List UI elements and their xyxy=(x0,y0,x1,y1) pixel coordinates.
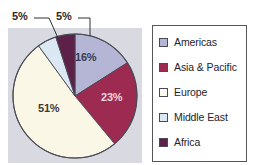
pie-chart-figure: 5% 5% 16% 23% 51% AmericasAsia & Pacific… xyxy=(0,0,253,165)
legend-item-europe[interactable]: Europe xyxy=(159,85,207,99)
legend-item-asia-pacific[interactable]: Asia & Pacific xyxy=(159,60,237,74)
slice-label-americas: 16% xyxy=(75,51,96,63)
chart-legend: AmericasAsia & PacificEuropeMiddle EastA… xyxy=(152,25,247,162)
legend-item-label: Middle East xyxy=(174,111,228,123)
legend-item-label: Africa xyxy=(174,136,200,148)
legend-swatch-icon xyxy=(159,63,168,72)
legend-item-label: Americas xyxy=(174,36,217,48)
legend-item-label: Asia & Pacific xyxy=(174,61,237,73)
legend-item-africa[interactable]: Africa xyxy=(159,135,200,149)
callout-label-middle-east: 5% xyxy=(12,10,28,22)
legend-item-americas[interactable]: Americas xyxy=(159,35,217,49)
callout-label-africa: 5% xyxy=(56,10,72,22)
legend-item-label: Europe xyxy=(174,86,207,98)
legend-swatch-icon xyxy=(159,38,168,47)
legend-swatch-icon xyxy=(159,113,168,122)
legend-swatch-icon xyxy=(159,138,168,147)
slice-label-europe: 51% xyxy=(38,102,59,114)
slice-label-asia-pacific: 23% xyxy=(101,91,122,103)
legend-swatch-icon xyxy=(159,88,168,97)
legend-item-middle-east[interactable]: Middle East xyxy=(159,110,228,124)
